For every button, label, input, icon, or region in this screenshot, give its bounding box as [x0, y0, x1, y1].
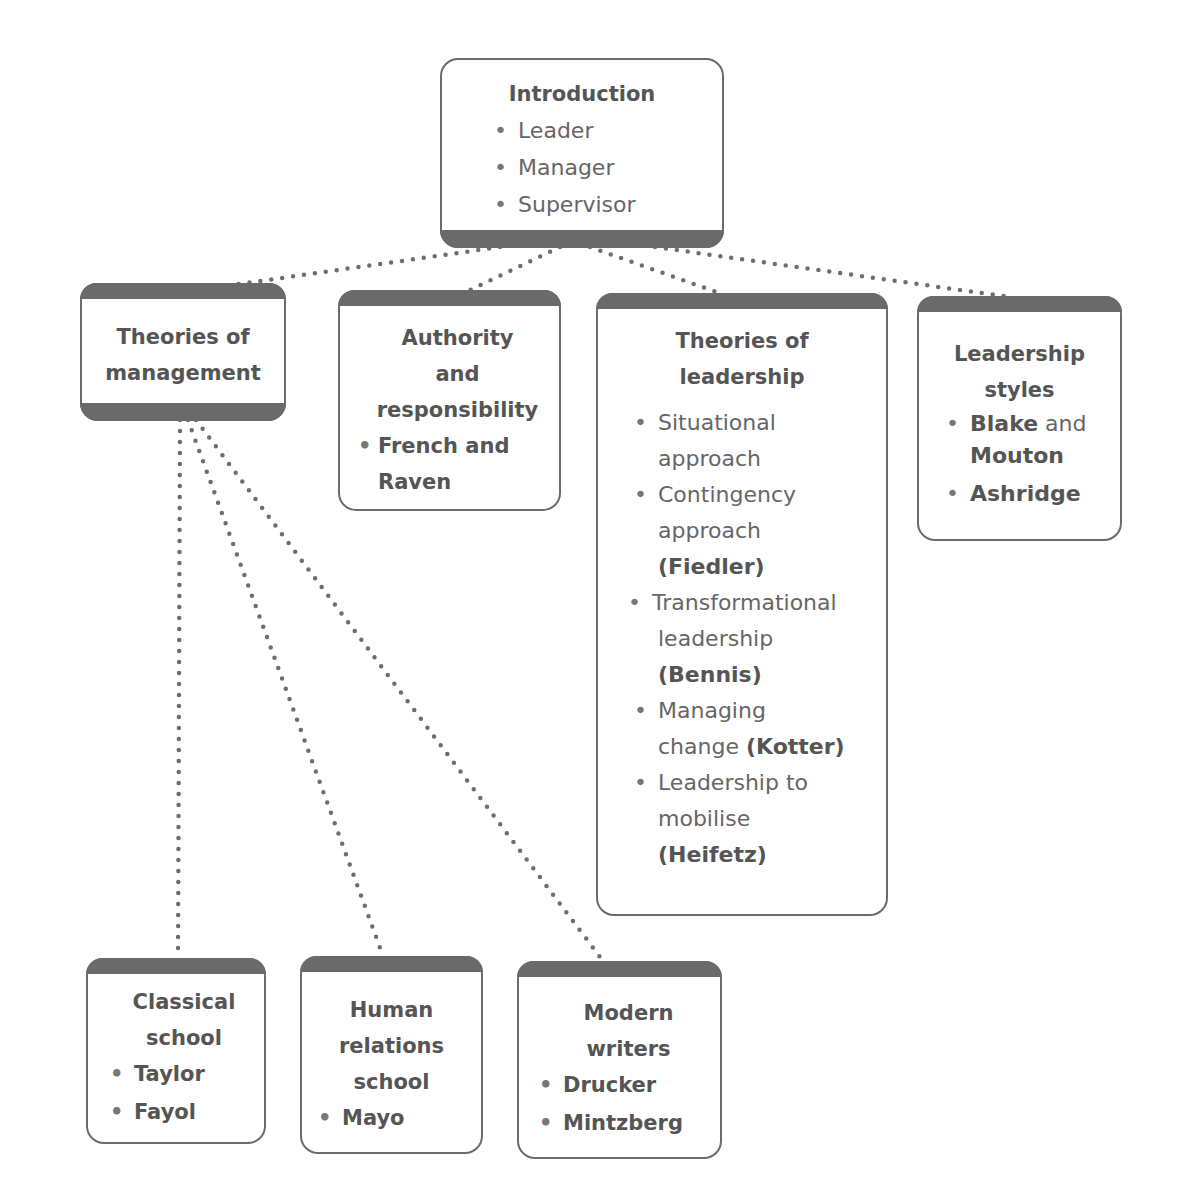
list-item-text: Leadership to: [658, 770, 808, 795]
connector-intro-to-management: [225, 247, 500, 286]
author-label: (Bennis): [658, 662, 762, 687]
list-item-text: change: [658, 734, 746, 759]
list-item-text: Situational: [658, 410, 776, 435]
node-band: [917, 296, 1122, 312]
list-item: Leader: [518, 112, 722, 149]
list-item: Transformational leadership (Bennis): [652, 585, 886, 693]
connector-intro-to-leadership-theories: [590, 247, 722, 294]
list-item-text: Transformational: [652, 590, 837, 615]
node-title: Human: [302, 992, 481, 1028]
list-item: Situational approach: [658, 405, 886, 477]
node-human-relations-school: Human relations school Mayo: [300, 956, 483, 1154]
list-item-text: Mouton: [970, 443, 1064, 468]
node-title: school: [88, 1020, 264, 1056]
connector-intro-to-authority: [470, 247, 560, 290]
node-band: [440, 230, 724, 248]
node-title: Authority: [340, 320, 559, 356]
node-band: [300, 956, 483, 972]
node-title: and: [340, 356, 559, 392]
list-item-text: Managing: [658, 698, 766, 723]
list-item: Ashridge: [970, 472, 1120, 516]
list-item-text: leadership: [658, 626, 773, 651]
node-title: Theories of: [598, 323, 886, 359]
author-label: (Fiedler): [658, 554, 765, 579]
author-label: (Kotter): [746, 734, 845, 759]
node-leadership-styles: Leadership styles Blake and Mouton Ashri…: [917, 296, 1122, 541]
node-band: [86, 958, 266, 974]
node-title: responsibility: [340, 392, 559, 428]
node-classical-school: Classical school Taylor Fayol: [86, 958, 266, 1144]
node-title: school: [302, 1064, 481, 1100]
list-item: Taylor: [134, 1056, 264, 1092]
node-introduction: Introduction Leader Manager Supervisor: [440, 58, 724, 248]
node-title: relations: [302, 1028, 481, 1064]
list-item-text: approach: [658, 446, 761, 471]
connector-management-to-classical: [178, 420, 180, 958]
node-title: Classical: [88, 984, 264, 1020]
list-item-text: mobilise: [658, 806, 750, 831]
list-item: Fayol: [134, 1092, 264, 1132]
list-item: Contingency approach (Fiedler): [658, 477, 886, 585]
list-item-text: Raven: [378, 470, 451, 494]
list-item-text: Ashridge: [970, 481, 1081, 506]
node-title: styles: [919, 372, 1120, 408]
list-item: Mintzberg: [563, 1103, 720, 1143]
node-theories-of-management: Theories of management: [80, 283, 286, 421]
node-title: writers: [519, 1031, 720, 1067]
node-band: [80, 403, 286, 421]
list-item: Supervisor: [518, 186, 722, 223]
node-band: [338, 290, 561, 306]
node-title: leadership: [598, 359, 886, 395]
list-item-text: French and: [378, 434, 509, 458]
node-modern-writers: Modern writers Drucker Mintzberg: [517, 961, 722, 1159]
author-label: (Heifetz): [658, 843, 767, 867]
list-item: Leadership to mobilise (Heifetz): [658, 765, 886, 873]
list-item: Blake and Mouton: [970, 408, 1120, 472]
node-title: Modern: [519, 995, 720, 1031]
list-item-text: Contingency: [658, 482, 796, 507]
list-item: Managing change (Kotter): [658, 693, 886, 765]
list-item: Mayo: [342, 1100, 481, 1136]
node-title: management: [82, 355, 284, 391]
list-item: Manager: [518, 149, 722, 186]
list-item-text: approach: [658, 518, 761, 543]
node-authority-and-responsibility: Authority and responsibility French and …: [338, 290, 561, 511]
node-band: [80, 283, 286, 299]
list-item: Drucker: [563, 1067, 720, 1103]
connector-intro-to-leadership-styles: [655, 247, 1010, 297]
node-title: Introduction: [442, 76, 722, 112]
node-theories-of-leadership: Theories of leadership Situational appro…: [596, 293, 888, 916]
node-band: [596, 293, 888, 309]
list-item-text: Blake: [970, 411, 1038, 436]
list-item-text: and: [1038, 411, 1086, 436]
node-band: [517, 961, 722, 977]
list-item: French and Raven: [382, 428, 559, 500]
node-title: Theories of: [82, 319, 284, 355]
node-title: Leadership: [919, 336, 1120, 372]
